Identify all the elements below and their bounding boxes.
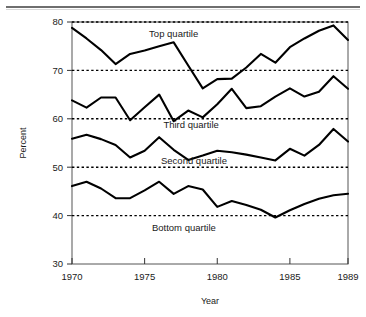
y-tick-label-30: 30 bbox=[52, 258, 63, 269]
y-tick-label-70: 70 bbox=[52, 65, 63, 76]
series-annotation-3: Bottom quartile bbox=[152, 222, 216, 233]
series-annotations: Top quartileThird quartileSecond quartil… bbox=[149, 28, 227, 234]
x-axis-ticks bbox=[72, 258, 348, 264]
y-tick-label-50: 50 bbox=[52, 162, 63, 173]
y-tick-label-40: 40 bbox=[52, 210, 63, 221]
series-annotation-0: Top quartile bbox=[149, 28, 198, 39]
y-tick-label-80: 80 bbox=[52, 16, 63, 27]
y-axis-title: Percent bbox=[18, 127, 28, 159]
x-tick-label-1975: 1975 bbox=[134, 271, 155, 282]
series-line-0 bbox=[72, 25, 348, 88]
series-annotation-2: Second quartile bbox=[161, 155, 227, 166]
x-tick-label-1985: 1985 bbox=[279, 271, 300, 282]
x-axis-title: Year bbox=[201, 296, 219, 306]
y-tick-label-60: 60 bbox=[52, 113, 63, 124]
y-axis-ticks bbox=[67, 22, 72, 264]
series-line-3 bbox=[72, 182, 348, 218]
y-axis-tick-labels: 807060504030 bbox=[52, 16, 63, 269]
x-tick-label-1980: 1980 bbox=[207, 271, 228, 282]
x-tick-label-1989: 1989 bbox=[337, 271, 358, 282]
x-axis-tick-labels: 19701975198019851989 bbox=[61, 271, 358, 282]
line-chart: 807060504030 19701975198019851989 Top qu… bbox=[0, 0, 366, 317]
series-annotation-1: Third quartile bbox=[163, 119, 218, 130]
x-tick-label-1970: 1970 bbox=[61, 271, 82, 282]
figure-canvas: 807060504030 19701975198019851989 Top qu… bbox=[0, 0, 366, 317]
